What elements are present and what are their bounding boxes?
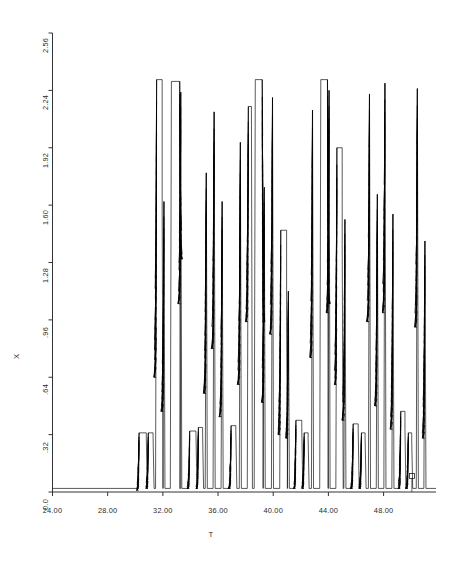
y-tick-label: .96 — [40, 319, 49, 345]
spike-oscillation-brush — [366, 94, 369, 322]
axis-ticks — [49, 33, 384, 496]
x-tick-label: 32.00 — [145, 506, 181, 515]
data-series-group — [53, 80, 437, 491]
spike-oscillation-brush — [187, 431, 190, 488]
small-open-square-marker — [409, 473, 414, 478]
x-tick-label: 28.00 — [90, 506, 126, 515]
spike-oscillation-brush — [375, 194, 378, 406]
spike-oscillation-brush — [154, 80, 157, 378]
x-tick-label: 44.00 — [310, 506, 346, 515]
y-axis-title: X — [12, 354, 21, 359]
spike-oscillation-brush — [178, 92, 181, 304]
x-tick-label: 48.00 — [366, 506, 402, 515]
spike-oscillation-brush — [278, 230, 281, 434]
y-tick-label: .64 — [40, 377, 49, 403]
spike-oscillation-brush — [269, 98, 272, 335]
y-tick-label: 1.60 — [40, 205, 49, 231]
spike-oscillation-brush — [334, 148, 337, 385]
spike-oscillation-brush — [301, 433, 304, 489]
series-envelope-line — [53, 80, 437, 489]
plot-canvas — [0, 0, 449, 563]
chart-figure: 0.0.32.64.961.281.601.922.242.56 24.0028… — [0, 0, 449, 563]
spike-oscillation-brush — [219, 202, 222, 417]
spike-oscillation-brush — [203, 173, 206, 394]
spike-oscillation-brush — [237, 142, 240, 384]
spike-oscillation-brush — [310, 110, 313, 357]
spike-oscillation-brush — [390, 214, 393, 429]
spike-oscillation-brush — [350, 424, 353, 489]
y-tick-label: .32 — [40, 434, 49, 460]
x-tick-label: 36.00 — [200, 506, 236, 515]
annotation-group — [409, 473, 414, 492]
x-tick-label: 24.00 — [35, 506, 71, 515]
y-tick-label: 1.92 — [40, 147, 49, 173]
spike-oscillation-brush — [359, 433, 362, 489]
spike-oscillation-brush — [228, 426, 231, 489]
spike-oscillation-brush — [245, 107, 248, 322]
x-tick-label: 40.00 — [255, 506, 291, 515]
spike-oscillation-brush — [382, 83, 384, 313]
y-tick-label: 1.28 — [40, 262, 49, 288]
spike-oscillation-brush — [136, 433, 139, 490]
x-axis-title: T — [208, 530, 213, 539]
spike-oscillation-brush — [293, 420, 296, 488]
spike-oscillation-brush — [422, 241, 425, 438]
y-tick-label: 2.24 — [40, 90, 49, 116]
spike-oscillation-brush — [414, 89, 417, 327]
axis-lines — [53, 33, 437, 492]
y-tick-label: 2.56 — [40, 33, 49, 59]
spike-oscillation-brush — [398, 411, 401, 488]
spike-oscillation-brush — [211, 112, 214, 349]
